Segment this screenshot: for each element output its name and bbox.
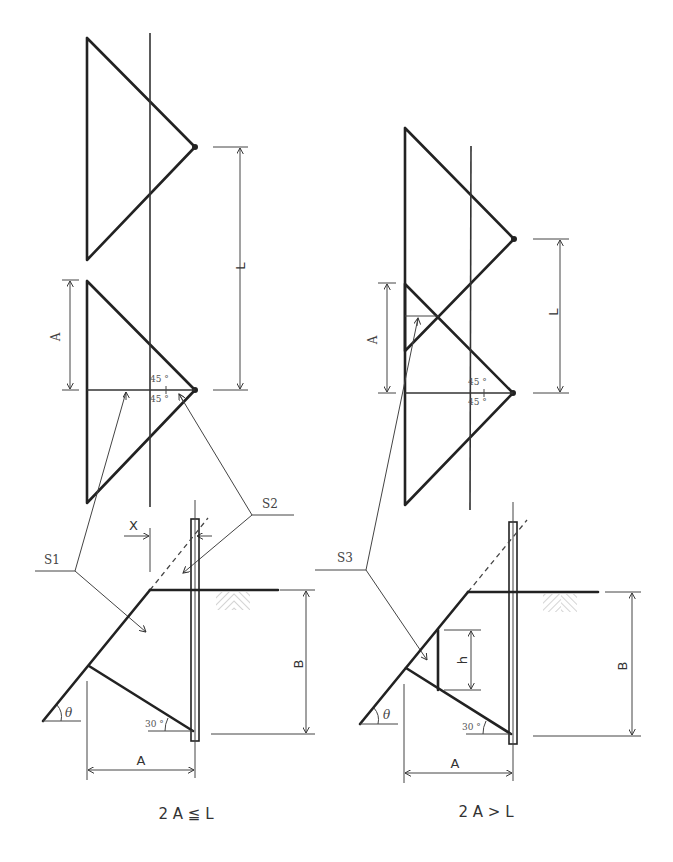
x-label: X: [129, 518, 138, 533]
s2-label: S2: [262, 497, 278, 511]
ground-hatch: [543, 594, 561, 612]
theta-arc: [374, 708, 378, 724]
s3-arrow-up: [417, 318, 418, 326]
slope-line: [43, 590, 150, 721]
s1-label: S1: [44, 553, 60, 567]
slope-line: [360, 592, 468, 724]
theta-arc: [57, 705, 61, 721]
s3-leader-down: [366, 570, 427, 660]
angle-30-label: 30 °: [462, 722, 481, 732]
upper-triangle: [87, 38, 195, 260]
angle-45-upper: 45 °: [150, 374, 169, 384]
ground-hatch-2: [561, 594, 577, 612]
ground-hatch-2: [234, 592, 250, 610]
ground-hatch: [216, 592, 234, 610]
a-top-label: A: [49, 332, 63, 342]
upper-apex-dot: [511, 236, 517, 242]
s2-arrow-up: [179, 394, 183, 401]
right-panel: L A 45 ° 45 ° S3 h 30 °: [315, 128, 641, 821]
a-bottom-label: A: [451, 756, 460, 771]
lower-triangle: [87, 281, 195, 503]
upper-triangle: [405, 128, 514, 351]
upper-apex-dot: [192, 144, 198, 150]
b-label: B: [615, 662, 630, 671]
wall-line: [470, 146, 471, 510]
lower-triangle: [405, 284, 513, 505]
l-label: L: [233, 262, 248, 270]
h-label: h: [455, 656, 470, 664]
failure-line-30: [89, 666, 193, 731]
angle-30-label: 30 °: [145, 719, 164, 729]
failure-line-30: [406, 668, 511, 734]
s3-leader: [315, 318, 418, 570]
left-caption: 2 A ≦ L: [158, 805, 214, 823]
s1-leader: [35, 392, 126, 571]
angle-30-arc: [165, 718, 168, 731]
left-panel: L A 45 ° 45 ° S1 S2 X: [35, 33, 315, 823]
angle-45-upper: 45 °: [468, 377, 487, 387]
b-label: B: [291, 660, 306, 669]
right-caption: 2 A > L: [458, 803, 514, 821]
diagram-canvas: L A 45 ° 45 ° S1 S2 X: [0, 0, 673, 862]
s3-label: S3: [337, 551, 353, 565]
s1-leader-down: [75, 571, 146, 632]
a-bottom-label: A: [137, 753, 146, 768]
s2-leader-down: [183, 515, 252, 573]
angle-45-lower: 45 °: [468, 397, 487, 407]
angle-30-arc: [483, 721, 486, 734]
a-top-label: A: [366, 335, 380, 345]
theta-label: θ: [65, 706, 73, 720]
slope-extension-dashed: [468, 520, 527, 592]
l-label: L: [546, 308, 561, 316]
angle-45-lower: 45 °: [150, 394, 169, 404]
theta-label: θ: [383, 708, 391, 722]
